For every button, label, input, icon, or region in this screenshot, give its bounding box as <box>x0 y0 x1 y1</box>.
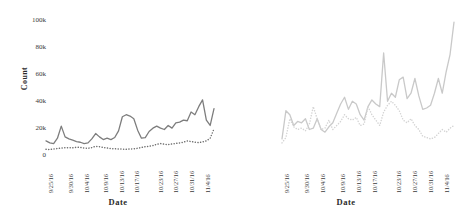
x-axis-tick-label: 11/4/16 <box>205 174 211 193</box>
x-axis-tick-label: 9/30/16 <box>68 174 74 193</box>
x-axis-tick-label: 10/17/16 <box>134 171 140 193</box>
x-axis-tick-label: 9/25/16 <box>284 174 290 193</box>
x-axis-tick-label: 11/4/16 <box>444 174 450 193</box>
x-axis-tick-label: 9/30/16 <box>304 174 310 193</box>
x-axis-tick-label: 9/25/16 <box>48 174 54 193</box>
chart-panel-left: Count 020k40k60k80k100k 9/25/169/30/1610… <box>0 0 236 220</box>
x-axis-tick-label: 10/31/16 <box>189 171 195 193</box>
x-axis-tick-label: 10/31/16 <box>428 171 434 193</box>
x-axis-tick-label: 10/13/16 <box>356 171 362 193</box>
x-axis-tick-label: 10/13/16 <box>119 171 125 193</box>
x-axis-tick-label: 10/23/16 <box>396 171 402 193</box>
chart-panel-right: 9/25/169/30/1610/4/1610/9/1610/13/1610/1… <box>236 0 472 220</box>
x-axis-title-right: Date <box>286 197 406 207</box>
x-axis-tick-label: 10/9/16 <box>340 174 346 193</box>
series-line-solid <box>282 22 454 139</box>
x-axis-tick-label: 10/27/16 <box>412 171 418 193</box>
x-axis-tick-label: 10/27/16 <box>173 171 179 193</box>
x-axis-title-left: Date <box>58 197 178 207</box>
x-axis-tick-label: 10/4/16 <box>84 174 90 193</box>
x-axis-tick-label: 10/9/16 <box>103 174 109 193</box>
x-axis-tick-label: 10/4/16 <box>320 174 326 193</box>
x-axis-tick-label: 10/17/16 <box>372 171 378 193</box>
two-panel-timeseries-figure: Count 020k40k60k80k100k 9/25/169/30/1610… <box>0 0 472 220</box>
x-axis-tick-label: 10/23/16 <box>158 171 164 193</box>
series-line-solid <box>46 100 214 144</box>
